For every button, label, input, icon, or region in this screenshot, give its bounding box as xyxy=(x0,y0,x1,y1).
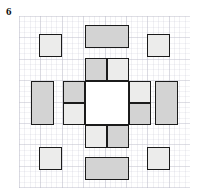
outer-bar-top xyxy=(85,25,129,48)
inner-square-bottom-right xyxy=(107,125,129,148)
corner-square-bottom-right xyxy=(147,147,170,170)
inner-square-left-lower xyxy=(63,103,85,125)
figure-canvas: 6 xyxy=(0,0,199,193)
inner-square-right-upper xyxy=(129,81,151,103)
inner-square-bottom-left xyxy=(85,125,107,148)
inner-square-left-upper xyxy=(63,81,85,103)
inner-square-top-right xyxy=(107,58,129,81)
problem-number-label: 6 xyxy=(6,6,12,17)
outer-bar-right xyxy=(155,81,178,125)
center-void xyxy=(85,81,129,125)
outer-bar-bottom xyxy=(85,157,129,180)
corner-square-top-right xyxy=(147,34,170,57)
corner-square-bottom-left xyxy=(39,147,62,170)
inner-square-top-left xyxy=(85,58,107,81)
outer-bar-left xyxy=(31,81,54,125)
corner-square-top-left xyxy=(39,34,62,57)
inner-square-right-lower xyxy=(129,103,151,125)
